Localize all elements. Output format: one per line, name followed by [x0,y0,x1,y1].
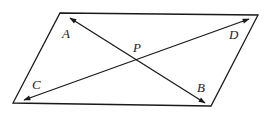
plane-lines-diagram: A P D C B [0,0,266,120]
label-d: D [228,27,239,42]
label-a: A [61,26,70,41]
label-b: B [197,80,205,95]
label-c: C [32,77,41,92]
line-ab [70,18,205,103]
line-cd [24,19,249,100]
label-p: P [132,40,141,55]
